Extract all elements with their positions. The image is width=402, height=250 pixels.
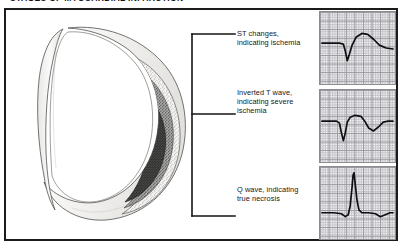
callout-label-inverted-t-wave: Inverted T wave, indicating severe ische… [237, 88, 321, 116]
ecg-strip-inverted-t-wave [319, 89, 396, 163]
callout-label-q-wave: Q wave, indicating true necrosis [237, 185, 321, 203]
heart-cross-section-svg [6, 10, 228, 239]
ecg-trace-st-changes [320, 12, 395, 84]
figure-title: Stages of Myocardial Infarction [10, 0, 183, 3]
ecg-strip-q-wave [319, 166, 396, 240]
ecg-strip-st-changes [319, 11, 396, 85]
figure-root: Stages of Myocardial Infarction [0, 0, 402, 250]
heart-cross-section-illustration [6, 10, 228, 239]
callout-label-st-changes: ST changes, indicating ischemia [237, 29, 321, 47]
ecg-trace-q-wave [320, 167, 395, 239]
ecg-trace-inverted-t-wave [320, 90, 395, 162]
